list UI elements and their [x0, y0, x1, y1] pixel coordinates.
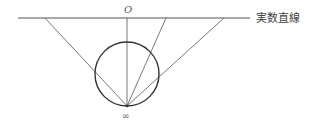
ray-right: [127, 18, 224, 106]
infinity-label: ∞: [122, 111, 130, 121]
ray-left: [45, 18, 127, 106]
ray-mid-right: [127, 18, 166, 106]
infinity-point: [126, 105, 128, 107]
projection-diagram: O ∞ 実数直線: [0, 0, 311, 122]
origin-label: O: [124, 4, 132, 15]
real-line-label: 実数直線: [256, 11, 300, 25]
